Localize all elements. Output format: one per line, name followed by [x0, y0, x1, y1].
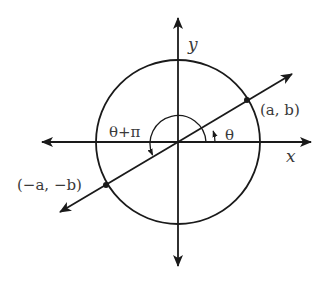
point-a-b-label: (a, b) [260, 101, 300, 119]
x-axis-label: x [286, 146, 296, 166]
point-neg-a-neg-b-dot [103, 182, 109, 188]
point-a-b-dot [244, 97, 250, 103]
unit-circle-diagram: y x (a, b) (−a, −b) θ θ+π [0, 0, 317, 282]
angle-theta-label: θ [225, 126, 234, 144]
angle-theta-arc [213, 131, 215, 142]
angle-theta-plus-pi-label: θ+π [109, 123, 141, 141]
point-neg-a-neg-b-label: (−a, −b) [17, 176, 82, 194]
y-axis-label: y [187, 34, 198, 54]
